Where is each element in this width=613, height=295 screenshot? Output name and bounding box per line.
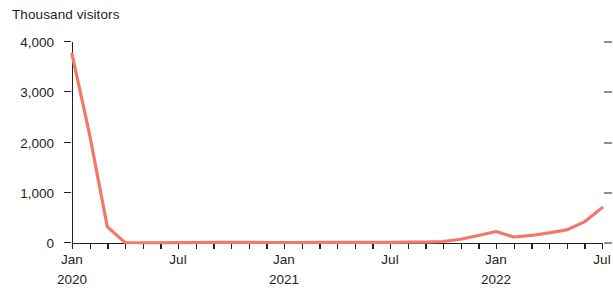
series-line-svg (0, 0, 613, 295)
visitors-series-line (72, 54, 602, 243)
visitors-line-chart: Thousand visitors 4,0003,0002,0001,0000 … (0, 0, 613, 295)
